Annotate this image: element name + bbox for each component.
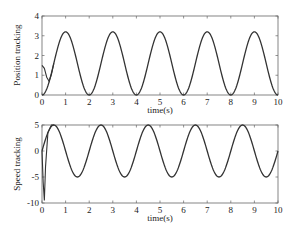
position-plot: 012345678910 01234 time(s) Position trac… xyxy=(12,11,283,115)
y-tick-label: 0 xyxy=(35,146,40,156)
speed-reference-line xyxy=(42,125,278,177)
speed-plot-frame xyxy=(42,125,278,203)
x-tick-label: 9 xyxy=(252,205,257,215)
speed-y-ticks: -10-505 xyxy=(27,120,278,208)
x-tick-label: 1 xyxy=(63,205,68,215)
position-actual-line xyxy=(42,63,54,81)
position-plot-frame xyxy=(42,16,278,95)
x-tick-label: 10 xyxy=(274,205,284,215)
y-tick-label: 0 xyxy=(35,90,40,100)
x-tick-label: 8 xyxy=(229,97,234,107)
y-tick-label: -10 xyxy=(27,198,39,208)
x-tick-label: 3 xyxy=(111,97,116,107)
y-tick-label: 4 xyxy=(35,11,40,21)
x-tick-label: 7 xyxy=(205,205,210,215)
x-tick-label: 2 xyxy=(87,205,92,215)
x-tick-label: 3 xyxy=(111,205,116,215)
y-tick-label: 1 xyxy=(35,70,40,80)
speed-x-axis-label: time(s) xyxy=(147,213,173,223)
y-tick-label: -5 xyxy=(32,172,40,182)
x-tick-label: 1 xyxy=(63,97,68,107)
speed-actual-line xyxy=(42,125,54,200)
x-tick-label: 6 xyxy=(181,205,186,215)
chart-figure: 012345678910 01234 time(s) Position trac… xyxy=(0,0,296,237)
x-tick-label: 6 xyxy=(181,97,186,107)
y-tick-label: 2 xyxy=(35,51,40,61)
y-tick-label: 5 xyxy=(35,120,40,130)
x-tick-label: 4 xyxy=(134,97,139,107)
x-tick-label: 4 xyxy=(134,205,139,215)
x-tick-label: 10 xyxy=(274,97,284,107)
speed-x-ticks: 012345678910 xyxy=(40,125,283,215)
x-tick-label: 8 xyxy=(229,205,234,215)
x-tick-label: 7 xyxy=(205,97,210,107)
y-tick-label: 3 xyxy=(35,31,40,41)
x-tick-label: 0 xyxy=(40,97,45,107)
speed-plot: 012345678910 -10-505 time(s) Speed track… xyxy=(12,120,283,223)
x-tick-label: 0 xyxy=(40,205,45,215)
position-y-axis-label: Position tracking xyxy=(12,24,22,86)
position-y-ticks: 01234 xyxy=(35,11,279,100)
x-tick-label: 9 xyxy=(252,97,257,107)
position-x-axis-label: time(s) xyxy=(147,105,173,115)
position-reference-line xyxy=(42,32,278,95)
position-x-ticks: 012345678910 xyxy=(40,16,283,107)
speed-y-axis-label: Speed tracking xyxy=(12,137,22,191)
x-tick-label: 2 xyxy=(87,97,92,107)
